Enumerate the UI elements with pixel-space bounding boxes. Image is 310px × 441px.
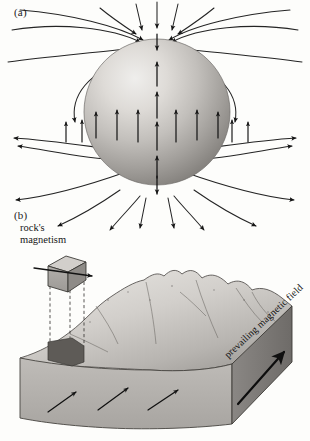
field-line-top-4: [172, 4, 178, 30]
field-line-bottom-5: [58, 190, 120, 226]
field-line-lower-right-2: [184, 172, 294, 200]
rock-caption-line-1: rock's: [20, 222, 66, 234]
field-line-bottom-4: [174, 196, 204, 230]
field-line-bottom-3: [168, 198, 174, 228]
field-line-bottom-6: [194, 190, 256, 226]
field-line-outer-left-1: [12, 26, 140, 42]
panel-a-label: (a): [14, 6, 27, 18]
field-line-lower-left-2: [16, 172, 126, 200]
panel-b-label: (b): [14, 209, 27, 221]
field-line-outer-right-1: [172, 26, 298, 42]
diagram-svg: [0, 0, 310, 441]
field-line-bottom-2: [140, 198, 146, 228]
rock-caption-line-2: magnetism: [20, 234, 66, 246]
field-line-top-2: [136, 4, 142, 30]
field-line-bottom-1: [110, 196, 140, 230]
field-line-top-1: [100, 8, 136, 34]
rock-magnetism-caption: rock's magnetism: [20, 222, 66, 245]
figure-canvas: (a) (b) rock's magnetism prevailing magn…: [0, 0, 310, 441]
